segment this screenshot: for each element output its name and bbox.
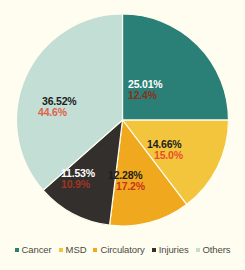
legend-swatch-icon bbox=[93, 248, 97, 252]
legend-label: Others bbox=[203, 244, 231, 255]
legend-item-others[interactable]: Others bbox=[196, 244, 231, 255]
legend-swatch-icon bbox=[59, 248, 63, 252]
legend-item-injuries[interactable]: Injuries bbox=[152, 244, 189, 255]
legend-label: MSD bbox=[66, 244, 87, 255]
legend-item-circulatory[interactable]: Circulatory bbox=[93, 244, 144, 255]
legend-item-msd[interactable]: MSD bbox=[59, 244, 87, 255]
legend-label: Injuries bbox=[159, 244, 189, 255]
pie-slice-group bbox=[17, 14, 229, 226]
legend-label: Cancer bbox=[22, 244, 52, 255]
chart-legend: CancerMSDCirculatoryInjuriesOthers bbox=[0, 244, 245, 255]
pie-slice-cancer[interactable] bbox=[123, 14, 229, 120]
pie-chart-figure: 25.01% 12.4% 14.66% 15.0% 12.28% 17.2% 1… bbox=[0, 0, 245, 270]
legend-item-cancer[interactable]: Cancer bbox=[15, 244, 52, 255]
pie-chart-svg bbox=[0, 0, 245, 238]
legend-swatch-icon bbox=[196, 248, 200, 252]
legend-swatch-icon bbox=[15, 248, 19, 252]
legend-label: Circulatory bbox=[100, 244, 144, 255]
pie-chart-area: 25.01% 12.4% 14.66% 15.0% 12.28% 17.2% 1… bbox=[0, 0, 245, 238]
legend-swatch-icon bbox=[152, 248, 156, 252]
